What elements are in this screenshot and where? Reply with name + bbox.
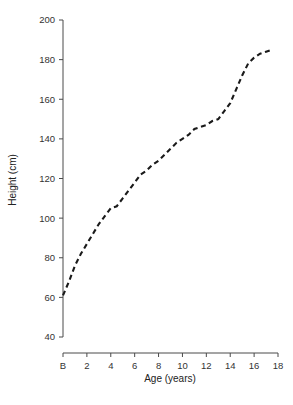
x-tick-label: 12 <box>201 360 212 371</box>
x-tick-label: 2 <box>84 360 89 371</box>
y-tick-label: 120 <box>39 173 55 184</box>
x-tick-label: 6 <box>132 360 137 371</box>
x-tick-label: B <box>60 360 66 371</box>
y-axis-tick-labels: 406080100120140160180200 <box>39 14 55 342</box>
y-tick-label: 180 <box>39 54 55 65</box>
growth-chart-figure: 406080100120140160180200 B24681012141618… <box>0 0 293 405</box>
height-growth-curve <box>63 50 272 296</box>
y-axis-ticks <box>59 20 63 337</box>
x-axis-title: Age (years) <box>144 373 196 384</box>
y-tick-label: 160 <box>39 94 55 105</box>
x-tick-label: 16 <box>249 360 260 371</box>
y-tick-label: 200 <box>39 14 55 25</box>
y-tick-label: 100 <box>39 213 55 224</box>
x-axis-tick-labels: B24681012141618 <box>60 360 283 371</box>
x-tick-label: 10 <box>177 360 188 371</box>
x-tick-label: 4 <box>108 360 113 371</box>
x-tick-label: 18 <box>273 360 284 371</box>
x-tick-label: 8 <box>156 360 161 371</box>
y-tick-label: 80 <box>44 252 55 263</box>
y-tick-label: 60 <box>44 292 55 303</box>
chart-canvas: 406080100120140160180200 B24681012141618… <box>0 0 293 405</box>
y-tick-label: 140 <box>39 133 55 144</box>
y-axis-title: Height (cm) <box>7 154 18 206</box>
x-tick-label: 14 <box>225 360 236 371</box>
y-tick-label: 40 <box>44 331 55 342</box>
x-axis-ticks <box>63 353 278 357</box>
